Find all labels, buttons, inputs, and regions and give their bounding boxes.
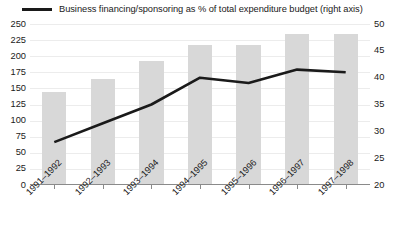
x-axis-tick bbox=[249, 185, 250, 189]
left-axis-tick-label: 175 bbox=[10, 68, 26, 77]
left-axis-tick-label: 25 bbox=[16, 164, 26, 173]
right-axis-tick-label: 30 bbox=[374, 127, 384, 136]
legend-series-label: Business financing/sponsoring as % of to… bbox=[59, 4, 363, 14]
x-axis-tick bbox=[151, 185, 152, 189]
left-axis-tick-label: 75 bbox=[16, 132, 26, 141]
x-axis-tick bbox=[103, 185, 104, 189]
right-axis-tick-label: 45 bbox=[374, 46, 384, 55]
right-axis-tick-labels: 20253035404550 bbox=[374, 24, 400, 185]
chart-container: Business financing/sponsoring as % of to… bbox=[0, 0, 408, 236]
line-series-path bbox=[54, 70, 345, 143]
right-axis-tick-label: 35 bbox=[374, 100, 384, 109]
left-axis-tick-label: 50 bbox=[16, 148, 26, 157]
x-axis-tick bbox=[346, 185, 347, 189]
x-axis-category-labels: 1991–19921992–19931993–19941994–19951995… bbox=[30, 190, 370, 236]
left-axis-tick-label: 150 bbox=[10, 84, 26, 93]
right-axis-tick-label: 25 bbox=[374, 154, 384, 163]
left-axis-tick-labels: 0255075100125150175200225250 bbox=[0, 24, 26, 185]
left-axis-tick-label: 125 bbox=[10, 100, 26, 109]
right-axis-tick-label: 40 bbox=[374, 73, 384, 82]
x-axis-tick bbox=[200, 185, 201, 189]
x-axis-tick bbox=[297, 185, 298, 189]
right-axis-tick-label: 50 bbox=[374, 20, 384, 29]
chart-legend: Business financing/sponsoring as % of to… bbox=[0, 0, 408, 18]
left-axis-tick-label: 250 bbox=[10, 20, 26, 29]
x-axis-tick bbox=[54, 185, 55, 189]
line-swatch-icon bbox=[22, 8, 52, 11]
right-axis-tick-label: 20 bbox=[374, 181, 384, 190]
left-axis-tick-label: 100 bbox=[10, 116, 26, 125]
left-axis-tick-label: 200 bbox=[10, 52, 26, 61]
left-axis-tick-label: 225 bbox=[10, 36, 26, 45]
